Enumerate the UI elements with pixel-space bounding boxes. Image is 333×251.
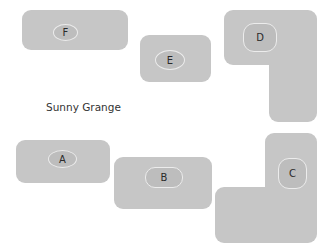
label-f: F — [53, 24, 78, 41]
label-e-text: E — [167, 55, 173, 66]
label-b: B — [145, 167, 183, 188]
label-b-text: B — [161, 172, 168, 183]
label-a: A — [48, 150, 77, 168]
label-d: D — [243, 23, 277, 52]
block-c-base — [215, 187, 317, 243]
label-c-text: C — [289, 168, 296, 179]
block-d-stem — [269, 58, 317, 122]
label-a-text: A — [59, 154, 66, 165]
label-c: C — [278, 158, 307, 189]
label-e: E — [155, 50, 185, 70]
label-d-text: D — [256, 32, 264, 43]
site-title: Sunny Grange — [46, 101, 121, 113]
label-f-text: F — [63, 27, 69, 38]
